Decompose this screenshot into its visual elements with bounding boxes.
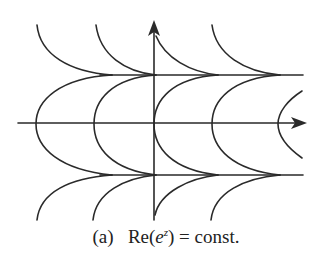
curve-bottom-3 [155,175,218,215]
curve-middle-2 [94,75,156,175]
curve-bottom-4 [211,175,280,220]
caption-base: e [155,226,163,247]
caption-prefix: Re( [128,226,155,247]
figure-caption: (a) Re(ez) = const. [0,226,332,248]
caption-suffix: ) = const. [168,226,239,247]
curve-top-1 [37,25,112,75]
curve-top-2 [96,25,156,75]
curve-top-4 [212,25,280,75]
curve-top-3 [156,36,218,75]
curve-middle-3 [154,75,218,175]
level-curves-diagram [0,0,332,226]
curve-middle-1 [36,75,112,175]
caption-label: (a) [93,226,114,247]
curve-middle-4 [212,75,280,175]
curve-bottom-1 [37,175,112,220]
curve-bottom-2 [93,175,156,220]
